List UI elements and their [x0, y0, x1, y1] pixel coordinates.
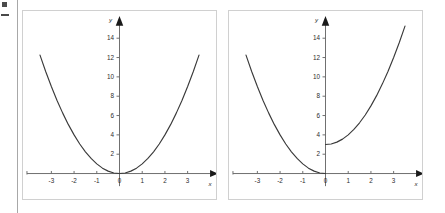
y-tick-label-4: 10	[107, 73, 115, 80]
y-tick-label-5: 12	[107, 54, 115, 61]
y-tick-label-0: 2	[111, 150, 115, 157]
y-tick-label-4: 10	[313, 73, 321, 80]
y-axis-arrow-icon	[322, 16, 330, 26]
x-tick-label-1: -2	[277, 177, 283, 184]
x-tick-label-2: -1	[300, 177, 306, 184]
x-tick-label-2: -1	[94, 177, 100, 184]
y-tick-label-2: 6	[317, 112, 321, 119]
y-axis-label: y	[108, 16, 113, 23]
y-tick-label-6: 14	[313, 34, 321, 41]
y-tick-label-1: 4	[111, 131, 115, 138]
y-tick-label-6: 14	[107, 34, 115, 41]
figure-root: -3-2-101232468101214xy -3-2-101232468101…	[0, 0, 445, 213]
x-tick-label-3: 0	[324, 177, 328, 184]
y-tick-label-3: 8	[317, 92, 321, 99]
chart-panel-left: -3-2-101232468101214xy	[22, 10, 217, 200]
x-tick-label-5: 2	[369, 177, 373, 184]
x-axis-label: x	[414, 180, 419, 187]
y-tick-label-5: 12	[313, 54, 321, 61]
y-tick-label-2: 6	[111, 112, 115, 119]
y-tick-label-0: 2	[317, 150, 321, 157]
x-tick-label-4: 1	[346, 177, 350, 184]
page-edge-rule	[17, 0, 18, 213]
x-axis-arrow-icon	[416, 170, 422, 177]
y-tick-label-3: 8	[111, 92, 115, 99]
chart-right-canvas: -3-2-101232468101214xy	[229, 11, 422, 199]
x-tick-label-5: 2	[163, 177, 167, 184]
x-tick-label-0: -3	[255, 177, 261, 184]
x-tick-label-3: 0	[118, 177, 122, 184]
x-tick-label-6: 3	[186, 177, 190, 184]
x-tick-label-4: 1	[140, 177, 144, 184]
x-axis-label: x	[208, 180, 213, 187]
curve-series-1	[326, 26, 405, 144]
y-tick-label-1: 4	[317, 131, 321, 138]
x-tick-label-1: -2	[71, 177, 77, 184]
edge-mark-upper-icon	[2, 2, 7, 7]
x-axis-arrow-icon	[210, 170, 216, 177]
edge-mark-lower-icon	[1, 14, 9, 16]
x-tick-label-0: -3	[49, 177, 55, 184]
chart-left-canvas: -3-2-101232468101214xy	[23, 11, 216, 199]
y-axis-arrow-icon	[116, 16, 124, 26]
chart-panel-right: -3-2-101232468101214xy	[228, 10, 423, 200]
x-tick-label-6: 3	[392, 177, 396, 184]
y-axis-label: y	[314, 16, 319, 23]
